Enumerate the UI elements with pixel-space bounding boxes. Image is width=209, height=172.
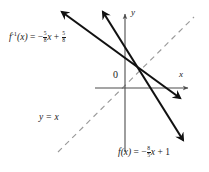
x-axis-label: x [179,70,183,79]
line-inverse-function [62,12,180,98]
inverse-function-equation: f-1(x) = −58x + 58 [9,31,66,44]
inverse-variable: x [47,32,51,42]
inverse-intercept-fraction: 58 [62,31,66,44]
fn-intercept: 1 [165,147,170,157]
fn-plus-sign: + [157,147,162,157]
fn-variable: x [151,147,155,157]
inverse-equals-sign: = [30,32,35,42]
origin-label: 0 [113,70,118,80]
line-identity [58,17,194,152]
function-equation: f(x) = −85x + 1 [118,146,170,159]
identity-line-label: y = x [39,113,59,123]
inverse-plus-sign: + [54,32,59,42]
coordinate-plot [0,0,209,172]
graph-figure: y x 0 f-1(x) = −58x + 58 f(x) = −85x + 1… [0,0,209,172]
fn-slope-sign: − [141,147,146,157]
y-axis-label: y [131,8,135,17]
fn-equals-sign: = [134,147,139,157]
inverse-slope-sign: − [38,32,43,42]
inverse-fn-argument: (x) [17,32,28,42]
fn-argument: (x) [121,147,132,157]
